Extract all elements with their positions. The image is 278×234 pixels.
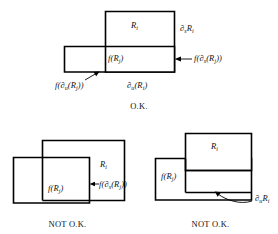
br-label-frj-open: f(R (161, 171, 172, 181)
br-label-du-ri: ∂uRi (255, 194, 270, 203)
figure-root: Ri ∂sRi f(∂s(Rj)) f(Rj) f(∂u(Rj)) ∂u(Ri)… (0, 0, 278, 234)
br-rect-ri (186, 134, 252, 171)
br-label-du-ri-sub-i: i (268, 198, 270, 204)
br-label-ri-sub: i (216, 146, 218, 152)
br-label-du-ri-sub-u: u (259, 198, 262, 204)
panel-bottom-right-not-ok: Ri f(Rj) ∂uRi NOT O.K. (0, 0, 278, 234)
bottom-right-diagram-svg (0, 0, 278, 234)
br-label-frj: f(Rj) (161, 172, 176, 181)
br-label-ri: Ri (211, 142, 218, 151)
br-label-du-ri-r: R (262, 193, 267, 203)
bottom-right-diagram (0, 0, 278, 234)
br-label-frj-end: ) (173, 171, 176, 181)
caption-not-ok-right: NOT O.K. (143, 219, 278, 229)
